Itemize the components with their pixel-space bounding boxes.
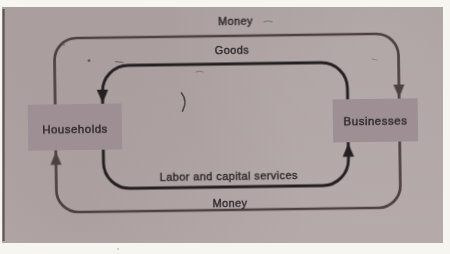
smudge-artifact [264,21,272,22]
smudge-artifact [196,71,203,72]
smudge-artifact [372,59,377,60]
scanned-page: Money Goods Labor and capital services M… [0,0,450,254]
labor-and-capital-services-label: Labor and capital services [160,169,298,183]
businesses-label: Businesses [343,114,407,127]
circular-flow-diagram: Money Goods Labor and capital services M… [0,0,450,254]
dust-speck-artifact [117,248,119,250]
money-bottom-label: Money [212,196,247,208]
households-label: Households [42,122,108,135]
money-top-label: Money [218,15,253,27]
smudge-artifact [63,44,65,46]
goods-label: Goods [215,44,250,56]
smudge-artifact [88,59,91,62]
goods-arrowhead-into-households [97,90,109,104]
money-arrowhead-into-businesses [393,84,404,98]
pen-mark-artifact [182,93,186,111]
money-arrowhead-into-households [50,151,61,165]
smudge-artifact [116,62,124,63]
labor-arrowhead-into-businesses [343,143,355,157]
